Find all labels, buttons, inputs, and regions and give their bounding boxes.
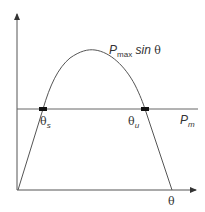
theta-s-label: θs bbox=[40, 115, 51, 130]
curve-label-sin: sin bbox=[135, 43, 150, 57]
stable-point-marker bbox=[39, 107, 47, 111]
x-axis-label: θ bbox=[168, 196, 175, 207]
theta-s-subscript: s bbox=[47, 121, 51, 130]
curve-label-main: P bbox=[109, 43, 117, 57]
curve-label: Pmax sin θ bbox=[109, 44, 161, 59]
theta-u-symbol: θ bbox=[128, 115, 135, 128]
power-angle-diagram bbox=[0, 0, 205, 212]
theta-s-symbol: θ bbox=[40, 115, 47, 128]
pm-subscript: m bbox=[188, 120, 195, 129]
unstable-point-marker bbox=[141, 107, 149, 111]
theta-u-label: θu bbox=[128, 115, 139, 130]
pm-main: P bbox=[180, 113, 188, 127]
pm-label: Pm bbox=[180, 114, 195, 129]
curve-label-theta: θ bbox=[154, 44, 161, 57]
theta-u-subscript: u bbox=[135, 121, 139, 130]
curve-label-subscript: max bbox=[117, 50, 132, 59]
